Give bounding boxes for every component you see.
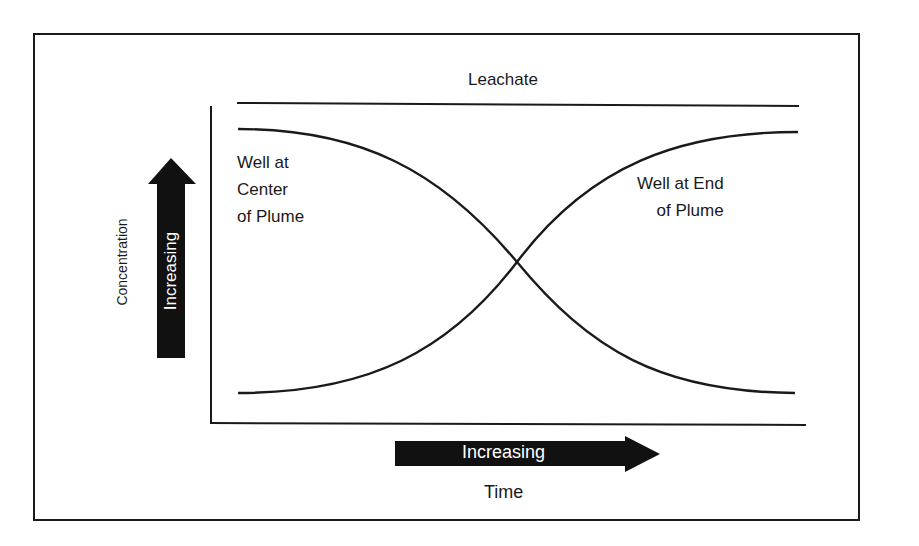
- y-axis-label: Concentration: [114, 218, 130, 305]
- x-arrow-label: Increasing: [462, 442, 545, 463]
- y-arrow-label: Increasing: [161, 232, 181, 310]
- end-label-line-2: of Plume: [637, 197, 724, 224]
- x-axis-label: Time: [484, 482, 523, 503]
- center-label-line-3: of Plume: [237, 203, 304, 230]
- end-of-plume-label: Well at End of Plume: [637, 170, 724, 224]
- x-axis: [210, 423, 806, 425]
- center-label-line-2: Center: [237, 176, 304, 203]
- leachate-label: Leachate: [468, 66, 538, 93]
- center-of-plume-label: Well at Center of Plume: [237, 149, 304, 230]
- concentration-time-plot: [0, 0, 919, 546]
- end-label-line-1: Well at End: [637, 170, 724, 197]
- center-label-line-1: Well at: [237, 149, 304, 176]
- leachate-line: [237, 103, 799, 106]
